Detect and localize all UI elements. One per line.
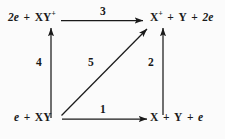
species-bottom-right-electron: e: [198, 111, 203, 123]
species-top-right: X+ + Y + 2e: [150, 12, 213, 24]
plus-operator: +: [19, 11, 35, 23]
species-top-right-electrons: 2e: [202, 11, 213, 23]
plus-operator: +: [19, 111, 35, 123]
species-bottom-left-molecule: XY: [35, 111, 52, 123]
charge-plus-superscript: +: [52, 9, 56, 18]
species-top-right-atom: Y: [178, 11, 186, 23]
reaction-cycle-diagram: 2e + XY+ X+ + Y + 2e e + XY X + Y + e 3 …: [0, 0, 225, 139]
arrow-label-top-horizontal: 3: [100, 6, 106, 18]
plus-operator: +: [163, 11, 179, 23]
species-top-left-coefficient-electron: 2e: [8, 11, 19, 23]
plus-operator: +: [182, 111, 198, 123]
species-top-left-molecule: XY+: [35, 11, 56, 23]
arrow-label-right-vertical: 2: [148, 57, 154, 69]
species-bottom-right: X + Y + e: [150, 112, 203, 124]
species-top-left: 2e + XY+: [8, 12, 56, 24]
arrow-label-left-vertical: 4: [36, 57, 42, 69]
plus-operator: +: [187, 11, 203, 23]
species-bottom-left: e + XY: [14, 112, 52, 124]
plus-operator: +: [158, 111, 174, 123]
arrow-label-bottom-horizontal: 1: [100, 104, 106, 116]
arrow-label-diagonal: 5: [88, 57, 94, 69]
species-top-right-cation: X+: [150, 11, 163, 23]
